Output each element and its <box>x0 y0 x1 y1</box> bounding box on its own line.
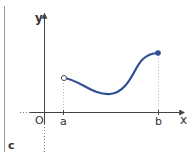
tick-label-b: b <box>155 115 162 128</box>
origin-label: O <box>35 114 44 127</box>
closed-endpoint-b <box>155 50 161 56</box>
graph-canvas: y x O a b c <box>0 0 191 156</box>
function-curve <box>64 53 158 94</box>
panel-label: c <box>8 139 15 152</box>
y-axis-label: y <box>35 11 43 25</box>
open-endpoint-a <box>61 75 66 80</box>
function-graph-figure: y x O a b c <box>0 0 191 156</box>
tick-label-a: a <box>60 115 67 128</box>
x-axis-label: x <box>180 113 187 127</box>
